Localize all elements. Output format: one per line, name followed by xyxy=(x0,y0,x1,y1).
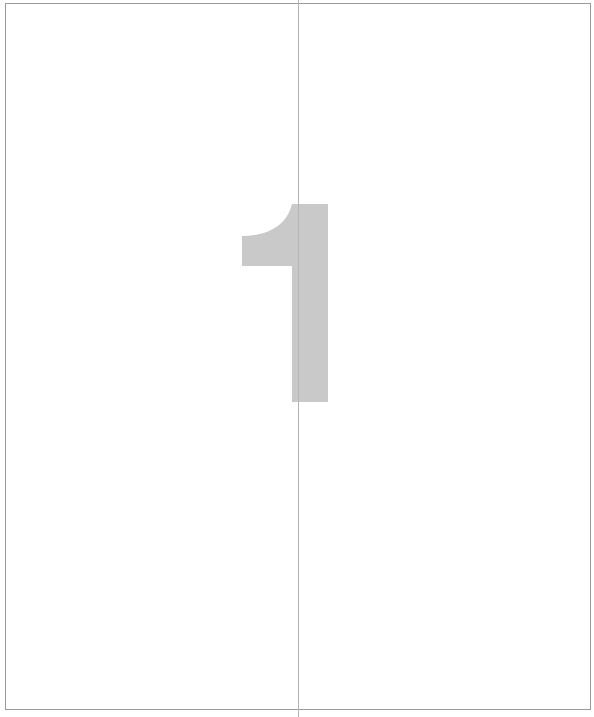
page-numeral: 1 xyxy=(242,204,330,402)
numeral-one-glyph xyxy=(242,204,330,402)
center-fold-line xyxy=(298,0,299,717)
